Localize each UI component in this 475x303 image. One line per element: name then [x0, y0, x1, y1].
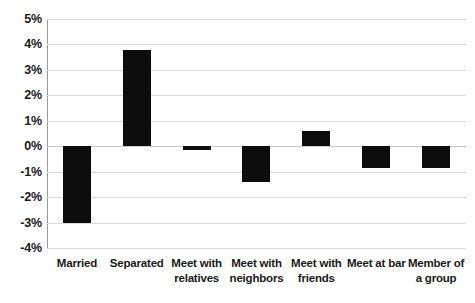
x-axis-category-label: Member of a group: [406, 256, 466, 286]
y-axis-tick-label: 3%: [0, 64, 42, 77]
y-axis-tick-label: 1%: [0, 115, 42, 128]
bar[interactable]: [242, 146, 270, 182]
bar-slot: [227, 19, 287, 248]
bar[interactable]: [422, 146, 450, 168]
gridline: [47, 248, 466, 249]
y-axis-tick-label: -4%: [0, 242, 42, 255]
y-axis-tick-label: -3%: [0, 216, 42, 229]
bar-slot: [346, 19, 406, 248]
x-axis-category-labels: MarriedSeparatedMeet with relativesMeet …: [47, 256, 466, 303]
bar[interactable]: [183, 146, 211, 150]
y-axis-tick-label: 4%: [0, 38, 42, 51]
bar-series: [47, 19, 466, 248]
bar[interactable]: [123, 50, 151, 147]
y-axis-tick-labels: 5%4%3%2%1%0%-1%-2%-3%-4%: [0, 0, 42, 303]
x-axis-category-label: Separated: [107, 256, 167, 271]
y-axis-tick-label: 5%: [0, 13, 42, 26]
x-axis-category-label: Meet with relatives: [167, 256, 227, 286]
x-axis-category-label: Married: [47, 256, 107, 271]
y-axis-tick-label: 2%: [0, 89, 42, 102]
bar[interactable]: [63, 146, 91, 222]
bar-chart: 5%4%3%2%1%0%-1%-2%-3%-4% MarriedSeparate…: [0, 0, 475, 303]
bar[interactable]: [302, 131, 330, 146]
y-axis-tick-label: -2%: [0, 191, 42, 204]
x-axis-category-label: Meet with friends: [286, 256, 346, 286]
y-axis-tick-label: 0%: [0, 140, 42, 153]
x-axis-category-label: Meet at bar: [346, 256, 406, 271]
bar-slot: [47, 19, 107, 248]
y-axis-tick-label: -1%: [0, 165, 42, 178]
bar-slot: [167, 19, 227, 248]
bar[interactable]: [362, 146, 390, 168]
x-axis-category-label: Meet with neighbors: [227, 256, 287, 286]
bar-slot: [286, 19, 346, 248]
bar-slot: [406, 19, 466, 248]
bar-slot: [107, 19, 167, 248]
plot-area: [47, 19, 466, 248]
